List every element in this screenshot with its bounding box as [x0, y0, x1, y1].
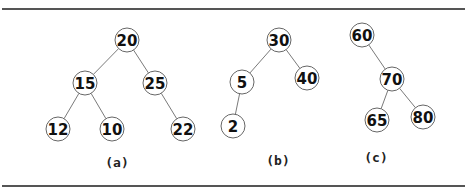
tree-node-15: 15: [73, 71, 97, 95]
tree-node-2: 2: [221, 114, 245, 138]
tree-node-60: 60: [350, 23, 374, 47]
node-label: 65: [367, 112, 388, 130]
node-label: 2: [228, 118, 238, 136]
tree-node-12: 12: [46, 117, 70, 141]
tree-edge: [250, 49, 271, 73]
tree-node-30: 30: [267, 28, 291, 52]
caption-c: (c): [364, 150, 387, 165]
tree-edge: [91, 93, 106, 118]
tree-edge: [64, 93, 79, 118]
tree-edge: [400, 88, 416, 107]
tree-node-70: 70: [380, 67, 404, 91]
binary-trees-diagram: 20152512102230540260706580 (a)(b)(c): [0, 0, 475, 189]
tree-node-10: 10: [100, 117, 124, 141]
node-label: 20: [117, 32, 138, 50]
tree-node-5: 5: [230, 70, 254, 94]
caption-a: (a): [105, 155, 128, 170]
tree-edge: [161, 93, 177, 118]
tree-edge: [235, 94, 239, 114]
caption-b: (b): [266, 153, 289, 168]
node-label: 30: [269, 32, 290, 50]
tree-node-40: 40: [295, 66, 319, 90]
node-label: 40: [297, 70, 318, 88]
tree-edge: [134, 50, 149, 73]
node-label: 70: [382, 71, 403, 89]
tree-node-80: 80: [411, 105, 435, 129]
tree-edge: [369, 45, 385, 69]
node-label: 25: [145, 75, 166, 93]
node-label: 12: [48, 121, 69, 139]
node-label: 10: [102, 121, 123, 139]
tree-captions: (a)(b)(c): [105, 150, 387, 170]
tree-edge: [381, 90, 388, 108]
node-label: 80: [413, 109, 434, 127]
node-label: 60: [352, 27, 373, 45]
node-label: 5: [237, 74, 247, 92]
tree-node-20: 20: [115, 28, 139, 52]
tree-nodes: 20152512102230540260706580: [46, 23, 435, 141]
tree-node-22: 22: [171, 117, 195, 141]
tree-edge: [286, 50, 300, 69]
tree-node-65: 65: [365, 108, 389, 132]
node-label: 22: [173, 121, 194, 139]
node-label: 15: [75, 75, 96, 93]
tree-edge: [93, 49, 118, 75]
tree-node-25: 25: [143, 71, 167, 95]
